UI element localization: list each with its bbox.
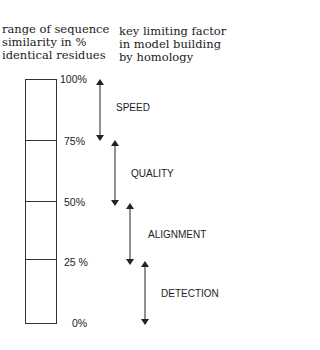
factor-alignment: ALIGNMENT (148, 229, 206, 240)
factor-detection: DETECTION (161, 288, 219, 299)
factor-speed: SPEED (116, 102, 150, 113)
factor-quality: QUALITY (131, 168, 174, 179)
